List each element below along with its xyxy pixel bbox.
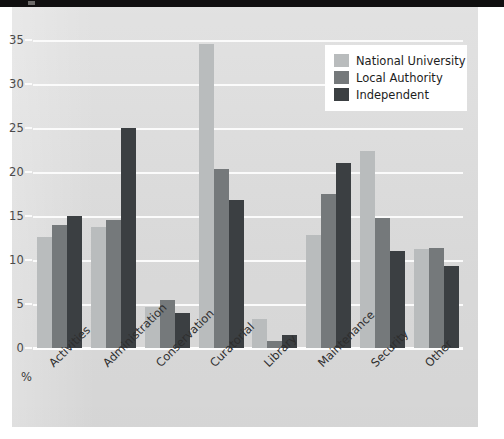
bar[interactable] [414,249,429,348]
legend-item[interactable]: Independent [334,86,459,103]
bar-group [33,40,87,348]
legend-swatch-national-university [334,54,349,67]
legend-label-local-authority: Local Authority [356,71,443,85]
y-tick-label: 15 [9,209,24,223]
y-tick-label: 0 [16,341,24,355]
x-label-slot: Library [248,352,302,422]
legend-item[interactable]: Local Authority [334,69,459,86]
y-tick-label: 10 [9,253,24,267]
bar[interactable] [336,163,351,348]
chart-page: 05101520253035 ActivitiesAdministrationC… [0,0,504,439]
bar[interactable] [444,266,459,348]
y-axis-unit-label: % [21,370,32,384]
bar[interactable] [375,218,390,348]
bar-group [87,40,141,348]
y-tick-mark [25,259,32,261]
y-tick-mark [25,171,32,173]
x-label-slot: Other [409,352,463,422]
bar[interactable] [37,237,52,348]
y-tick-label: 5 [16,297,24,311]
y-tick-mark [25,83,32,85]
chart-legend: National University Local Authority Inde… [325,45,467,111]
bar[interactable] [106,220,121,348]
legend-swatch-independent [334,88,349,101]
x-label-slot: Conservation [141,352,195,422]
bar-group [248,40,302,348]
bar[interactable] [214,169,229,348]
bar[interactable] [52,225,67,348]
legend-label-national-university: National University [356,54,466,68]
legend-item[interactable]: National University [334,52,459,69]
y-tick-mark [25,127,32,129]
legend-swatch-local-authority [334,71,349,84]
y-tick-label: 30 [9,77,24,91]
y-tick-label: 35 [9,33,24,47]
x-label-slot: Maintenance [302,352,356,422]
y-tick-mark [25,347,32,349]
bar-group [194,40,248,348]
x-label-slot: Administration [87,352,141,422]
bar[interactable] [252,319,267,348]
bar[interactable] [91,227,106,348]
bar[interactable] [306,235,321,348]
x-label-slot: Curatorial [194,352,248,422]
bar-group [141,40,195,348]
legend-label-independent: Independent [356,88,429,102]
x-axis-labels: ActivitiesAdministrationConservationCura… [33,352,463,422]
bar[interactable] [321,194,336,348]
y-tick-label: 25 [9,121,24,135]
x-label-slot: Activities [33,352,87,422]
bar[interactable] [429,248,444,348]
x-label-slot: Security [356,352,410,422]
y-tick-mark [25,39,32,41]
y-tick-label: 20 [9,165,24,179]
scan-artifact-mark [28,1,35,5]
bar[interactable] [199,44,214,348]
y-tick-mark [25,303,32,305]
scan-edge-strip [0,0,504,7]
bar[interactable] [121,128,136,348]
y-tick-mark [25,215,32,217]
